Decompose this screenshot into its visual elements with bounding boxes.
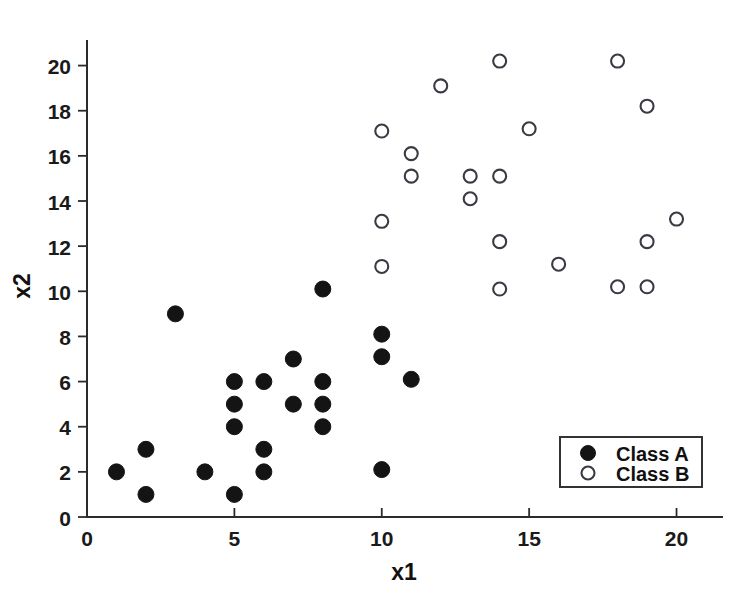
data-point — [108, 464, 124, 480]
scatter-plot-canvas: 02468101214161820 05101520 x1 x2 Class A… — [0, 0, 746, 601]
data-point — [374, 462, 390, 478]
data-point — [197, 464, 213, 480]
data-point — [375, 260, 388, 273]
y-tick-label: 20 — [48, 55, 71, 78]
data-point — [464, 170, 477, 183]
y-tick-label: 16 — [48, 145, 71, 168]
y-tick-label: 18 — [48, 100, 72, 123]
series-class-a-points — [108, 281, 419, 502]
y-axis-title: x2 — [9, 273, 35, 299]
data-point — [315, 281, 331, 297]
y-tick-label: 8 — [59, 326, 71, 349]
data-point — [493, 283, 506, 296]
data-point — [374, 349, 390, 365]
data-point — [405, 170, 418, 183]
data-point — [493, 235, 506, 248]
data-point — [315, 396, 331, 412]
x-tick-label: 10 — [370, 527, 393, 550]
x-axis-title: x1 — [391, 559, 417, 585]
data-point — [226, 374, 242, 390]
x-tick-label: 20 — [665, 527, 688, 550]
data-point — [523, 122, 536, 135]
data-point — [493, 55, 506, 68]
legend[interactable]: Class A Class B — [560, 437, 702, 487]
data-point — [434, 79, 447, 92]
x-tick-label: 15 — [517, 527, 541, 550]
legend-marker-class-b — [582, 467, 595, 480]
x-axis-ticks: 05101520 — [81, 508, 688, 550]
series-class-b-points — [375, 55, 683, 296]
y-tick-label: 10 — [48, 281, 71, 304]
data-point — [226, 419, 242, 435]
legend-label-class-a: Class A — [616, 443, 689, 465]
y-tick-label: 6 — [59, 371, 71, 394]
data-point — [138, 486, 154, 502]
data-point — [167, 306, 183, 322]
data-point — [256, 464, 272, 480]
data-point — [405, 147, 418, 160]
y-axis-ticks: 02468101214161820 — [48, 55, 87, 529]
data-point — [641, 100, 654, 113]
data-point — [493, 170, 506, 183]
data-point — [375, 125, 388, 138]
data-point — [226, 486, 242, 502]
x-tick-label: 0 — [81, 527, 93, 550]
data-point — [403, 371, 419, 387]
data-point — [285, 396, 301, 412]
legend-marker-class-a — [581, 446, 596, 461]
y-tick-label: 12 — [48, 236, 71, 259]
y-tick-label: 2 — [59, 461, 71, 484]
legend-label-class-b: Class B — [616, 463, 689, 485]
data-point — [315, 419, 331, 435]
data-point — [464, 192, 477, 205]
data-point — [256, 441, 272, 457]
scatter-plot-figure: 02468101214161820 05101520 x1 x2 Class A… — [0, 0, 746, 601]
data-point — [374, 326, 390, 342]
data-point — [285, 351, 301, 367]
data-point — [641, 235, 654, 248]
data-point — [138, 441, 154, 457]
y-tick-label: 0 — [59, 507, 71, 530]
data-point — [611, 280, 624, 293]
data-point — [375, 215, 388, 228]
data-point — [256, 374, 272, 390]
data-point — [670, 213, 683, 226]
x-tick-label: 5 — [229, 527, 241, 550]
y-tick-label: 14 — [48, 191, 72, 214]
data-point — [315, 374, 331, 390]
data-point — [611, 55, 624, 68]
data-point — [641, 280, 654, 293]
y-tick-label: 4 — [59, 416, 71, 439]
data-point — [226, 396, 242, 412]
data-point — [552, 258, 565, 271]
